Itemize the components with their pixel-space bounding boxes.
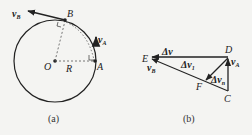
label-b: B (67, 8, 73, 19)
label-va: vA (98, 34, 106, 46)
label-delta-v1: Δv1 (180, 59, 195, 71)
figure-a: vB B vA O R A (a) (12, 8, 106, 125)
label-vb-b: vB (147, 62, 155, 74)
label-o: O (44, 61, 51, 72)
angle-arc-dotted (66, 22, 94, 60)
right-angle-mark-b (57, 22, 61, 27)
label-delta-vn: Δvn (210, 74, 226, 86)
figure-b: E D C F Δv Δv1 Δvn vA vB (b) (141, 44, 239, 125)
caption-a: (a) (48, 113, 59, 125)
label-d: D (224, 44, 233, 55)
caption-b: (b) (183, 113, 195, 125)
label-f: F (195, 81, 203, 92)
label-r: R (65, 63, 72, 74)
label-va-b: vA (231, 56, 239, 68)
velocity-b-arrow (28, 11, 65, 20)
figure-canvas: vB B vA O R A (a) E D C F Δv Δv1 Δvn vA … (0, 0, 252, 135)
label-c: C (224, 93, 231, 104)
label-a: A (96, 61, 104, 72)
label-delta-v: Δv (161, 46, 173, 57)
label-vb: vB (12, 8, 20, 20)
